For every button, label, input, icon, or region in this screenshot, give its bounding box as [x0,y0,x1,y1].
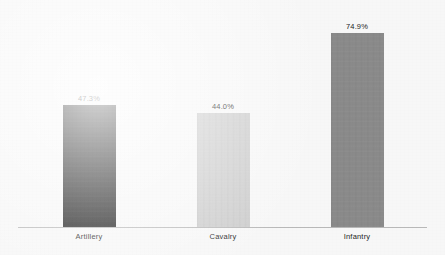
bar-group-infantry[interactable]: 74.9% [309,12,405,227]
category-tick-label-artillery: Artillery [41,232,137,241]
bar-value-label-cavalry: 44.0% [212,103,234,111]
bar-artillery[interactable] [63,105,116,227]
category-tick-label-cavalry: Cavalry [175,232,271,241]
category-tick-label-infantry: Infantry [309,232,405,241]
bar-chart-figure: 47.3% 44.0% 74.9% Artillery Cavalry Infa… [0,0,445,255]
bar-group-artillery[interactable]: 47.3% [41,12,137,227]
bar-value-label-infantry: 74.9% [346,23,368,31]
bar-infantry[interactable] [331,33,384,227]
x-axis-baseline [18,227,427,228]
bar-group-cavalry[interactable]: 44.0% [175,12,271,227]
plot-area: 47.3% 44.0% 74.9% Artillery Cavalry Infa… [0,0,445,255]
bar-value-label-artillery: 47.3% [78,95,100,103]
bar-cavalry[interactable] [197,113,250,227]
